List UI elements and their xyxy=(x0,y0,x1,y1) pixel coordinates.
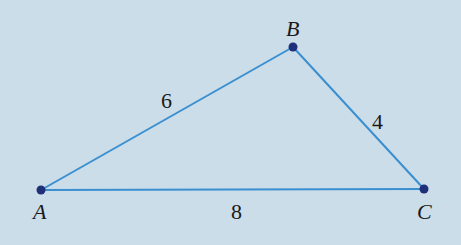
vertex-c-label: C xyxy=(417,199,432,224)
side-bc-length: 4 xyxy=(372,109,383,134)
side-bc xyxy=(293,47,424,189)
side-ac xyxy=(41,189,424,190)
side-ab-length: 6 xyxy=(161,88,172,113)
side-ac-length: 8 xyxy=(231,199,242,224)
side-ab xyxy=(41,47,293,190)
triangle-svg: A B C 6 4 8 xyxy=(0,0,461,245)
vertex-a-dot xyxy=(37,186,46,195)
vertex-b-dot xyxy=(289,43,298,52)
vertex-c-dot xyxy=(420,185,429,194)
vertex-a-label: A xyxy=(31,199,47,224)
triangle-diagram: A B C 6 4 8 xyxy=(0,0,461,245)
vertex-b-label: B xyxy=(286,16,299,41)
